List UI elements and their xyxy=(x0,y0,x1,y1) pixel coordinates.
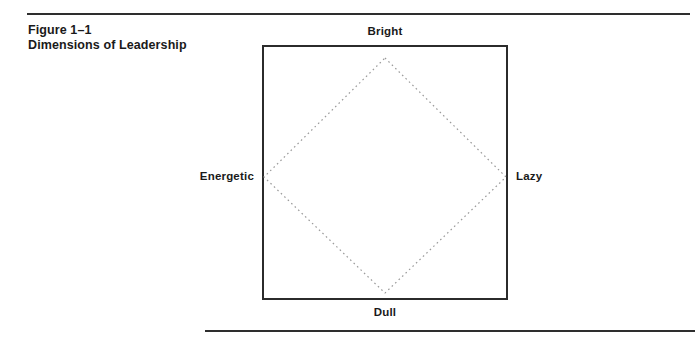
pole-label-bottom: Dull xyxy=(262,306,508,318)
pole-label-right: Lazy xyxy=(516,170,636,182)
figure-page: Figure 1–1 Dimensions of Leadership Brig… xyxy=(0,0,698,347)
pole-label-left: Energetic xyxy=(142,170,254,182)
diamond-polygon xyxy=(264,58,506,293)
pole-label-top: Bright xyxy=(262,25,508,37)
bottom-horizontal-rule xyxy=(205,330,695,332)
leadership-dimensions-diagram: Bright Energetic Lazy Dull xyxy=(0,0,698,347)
diagram-diamond-shape xyxy=(262,45,508,300)
